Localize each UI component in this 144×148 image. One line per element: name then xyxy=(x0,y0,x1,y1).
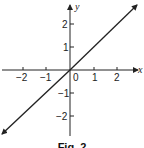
y-axis-label: y xyxy=(74,1,80,12)
x-tick-label: −1 xyxy=(40,72,52,83)
x-tick-label: 1 xyxy=(92,72,98,83)
x-tick-label: −2 xyxy=(16,72,28,83)
x-axis-label: x xyxy=(137,64,143,75)
figure-caption: Fig. 2 xyxy=(0,141,144,148)
y-tick-label: −1 xyxy=(58,88,70,99)
line-y-equals-x-lower xyxy=(2,70,70,134)
origin-label: 0 xyxy=(73,72,79,83)
line-y-equals-x xyxy=(70,5,137,70)
y-tick-label: −2 xyxy=(56,111,68,122)
y-tick-label: 1 xyxy=(63,42,69,53)
y-tick-label: 2 xyxy=(62,19,68,30)
plot-area: −2 −1 0 1 2 2 1 −1 −2 x y xyxy=(0,0,144,148)
x-tick-label: 2 xyxy=(114,72,120,83)
